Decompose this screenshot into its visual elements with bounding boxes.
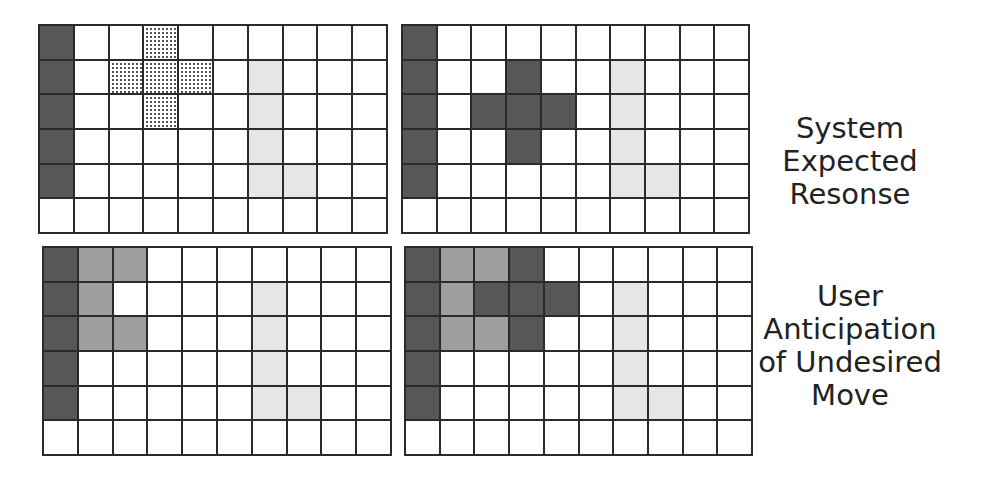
grid-cell-empty [715,26,748,59]
grid-cell-empty [183,387,216,420]
grid-cell-empty [148,283,181,316]
grid-cell-medium [441,317,474,350]
grid-cell-dark [475,283,508,316]
grid-cell-empty [353,199,386,232]
grid-cell-empty [110,130,143,163]
grid-cell-empty [681,26,714,59]
grid-cell-empty [284,130,317,163]
grid-cell-empty [577,61,610,94]
grid-cell-empty [318,130,351,163]
grid-cell-empty [475,387,508,420]
grid-cell-empty [79,387,112,420]
grid-cell-empty [357,421,390,454]
grid-cell-dark [507,95,540,128]
grid-cell-empty [288,317,321,350]
grid-cell-empty [545,421,578,454]
grid-cell-empty [472,165,505,198]
grid-cell-empty [214,199,247,232]
grid-cell-dark [406,283,439,316]
grid-cell-medium [441,283,474,316]
grid-cell-dark [40,95,73,128]
grid-cell-empty [110,165,143,198]
grid-cell-empty [288,421,321,454]
grid-cell-empty [545,352,578,385]
grid-cell-empty [79,352,112,385]
grid-cell-empty [353,165,386,198]
grid-cell-dark [510,317,543,350]
grid-cell-light [253,317,286,350]
grid-cell-dark [472,95,505,128]
label-line: Resonse [760,178,940,211]
grid-cell-light [614,387,647,420]
grid-cell-light [611,61,644,94]
grid-cell-empty [649,283,682,316]
grid-cell-empty [253,421,286,454]
grid-cell-empty [542,61,575,94]
grid-cell-dotted [110,61,143,94]
grid-cell-empty [322,387,355,420]
grid-cell-dark [44,317,77,350]
grid-cell-empty [357,352,390,385]
grid-cell-empty [577,26,610,59]
grid-cell-empty [110,26,143,59]
grid-cell-empty [577,130,610,163]
grid-cell-light [249,61,282,94]
grid-cell-empty [114,421,147,454]
grid-cell-empty [218,387,251,420]
grid-cell-empty [681,165,714,198]
grid-cell-light [249,95,282,128]
label-line: of Undesired [745,346,955,379]
grid-cell-empty [284,199,317,232]
grid-cell-empty [75,26,108,59]
grid-cell-empty [218,283,251,316]
grid-cell-dotted [144,26,177,59]
grid-cell-empty [715,165,748,198]
grid-cell-empty [577,95,610,128]
grid-cell-empty [684,317,717,350]
grid-cell-medium [114,248,147,281]
grid-cell-dark [403,26,436,59]
grid-cell-light [614,352,647,385]
grid-cell-empty [545,248,578,281]
grid-cell-empty [441,352,474,385]
grid-cell-empty [148,352,181,385]
grid-cell-empty [322,248,355,281]
grid-cell-empty [614,421,647,454]
grid-cell-dark [403,95,436,128]
grid-cell-empty [318,61,351,94]
grid-cell-light [253,283,286,316]
grid-cell-empty [611,26,644,59]
grid-cell-empty [649,317,682,350]
grid-cell-light [284,165,317,198]
grid-cell-empty [507,26,540,59]
grid-cell-empty [40,199,73,232]
grid-cell-empty [218,421,251,454]
label-line: Move [745,379,955,412]
grid-cell-empty [475,352,508,385]
grid-cell-medium [79,283,112,316]
grid-cell-empty [357,387,390,420]
grid-cell-empty [542,165,575,198]
grid-cell-empty [214,95,247,128]
grid-cell-empty [580,248,613,281]
grid-cell-empty [44,421,77,454]
grid-cell-empty [218,248,251,281]
grid-cell-light [249,130,282,163]
grid-cell-empty [475,421,508,454]
grid-cell-empty [681,130,714,163]
grid-cell-dark [406,317,439,350]
grid-cell-dark [403,130,436,163]
grid-cell-empty [542,26,575,59]
grid-cell-empty [510,352,543,385]
grid-cell-empty [179,95,212,128]
grid-cell-empty [144,165,177,198]
grid-cell-empty [438,130,471,163]
grid-cell-empty [577,165,610,198]
grid-cell-medium [114,317,147,350]
grid-cell-light [649,387,682,420]
grid-cell-empty [288,352,321,385]
grid-cell-dark [40,26,73,59]
grid-cell-medium [441,248,474,281]
grid-cell-empty [715,95,748,128]
grid-cell-empty [577,199,610,232]
